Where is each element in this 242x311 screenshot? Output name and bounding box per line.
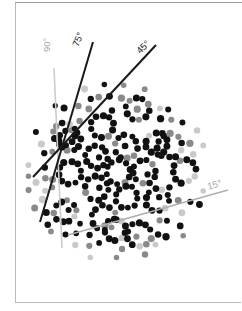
data-point	[114, 181, 120, 187]
data-point	[86, 243, 92, 249]
data-point	[81, 86, 88, 93]
data-point	[115, 135, 121, 141]
data-point	[104, 171, 110, 177]
data-point	[162, 233, 169, 240]
data-point	[50, 128, 56, 134]
data-point	[129, 221, 135, 227]
data-point	[95, 94, 102, 101]
data-point	[102, 148, 109, 155]
data-point	[92, 132, 98, 138]
data-point	[53, 203, 59, 209]
data-point	[152, 242, 158, 248]
data-point	[118, 154, 124, 160]
data-point	[136, 219, 143, 226]
data-point	[144, 171, 150, 177]
data-point	[153, 185, 160, 192]
data-point	[72, 242, 78, 248]
data-point	[65, 181, 72, 188]
data-point	[82, 189, 89, 196]
data-point	[159, 186, 165, 192]
data-point	[113, 198, 119, 204]
data-point	[109, 107, 115, 113]
angle-label-90: 90°	[41, 38, 52, 52]
data-point	[148, 149, 155, 156]
data-point	[146, 133, 152, 139]
data-point	[178, 180, 185, 187]
data-point	[26, 162, 32, 168]
data-point	[165, 192, 171, 198]
data-point	[178, 147, 184, 153]
data-point	[87, 196, 93, 202]
data-point	[147, 226, 153, 232]
data-point	[146, 180, 153, 187]
data-point	[143, 157, 149, 163]
data-point	[59, 120, 66, 127]
data-point	[60, 159, 67, 166]
data-point	[78, 168, 84, 174]
data-point	[123, 104, 129, 110]
data-point	[164, 143, 171, 150]
data-point	[33, 129, 39, 135]
data-point	[62, 231, 68, 237]
data-point	[69, 138, 76, 145]
data-point	[190, 151, 197, 158]
data-point	[127, 98, 133, 104]
data-point	[146, 189, 152, 195]
data-point	[133, 94, 140, 101]
data-point	[133, 234, 139, 240]
data-point	[124, 235, 131, 242]
data-point	[113, 149, 119, 155]
data-point	[170, 169, 177, 176]
data-point	[77, 136, 84, 143]
data-point	[112, 140, 118, 146]
data-point	[133, 176, 139, 182]
data-point	[167, 130, 174, 137]
data-point	[98, 175, 105, 182]
data-point	[142, 86, 148, 92]
data-point	[83, 158, 90, 165]
data-point	[42, 188, 48, 194]
data-point	[143, 241, 150, 248]
figure-container: 90° 75° 45° 15°	[0, 0, 242, 311]
data-point	[143, 138, 150, 145]
data-point	[124, 110, 131, 117]
data-point	[92, 173, 99, 180]
data-point	[109, 224, 115, 230]
data-point	[105, 133, 112, 140]
data-point	[165, 106, 171, 112]
data-point	[136, 243, 142, 249]
data-point	[122, 183, 129, 190]
data-point	[193, 166, 200, 173]
data-point	[139, 96, 145, 102]
data-point	[88, 255, 93, 260]
data-point	[125, 205, 131, 211]
data-point	[96, 240, 102, 246]
data-point	[119, 246, 125, 252]
pattern-canvas	[0, 0, 242, 311]
data-point	[90, 220, 97, 227]
data-point	[73, 180, 79, 186]
data-point	[132, 202, 138, 208]
data-point	[110, 120, 117, 127]
data-point	[134, 106, 141, 113]
data-point	[137, 157, 144, 164]
data-point	[183, 156, 190, 163]
data-point	[116, 186, 122, 192]
data-point	[179, 120, 185, 126]
data-point	[96, 154, 102, 160]
data-point	[33, 179, 40, 186]
data-point	[186, 140, 193, 147]
data-point	[131, 152, 138, 159]
data-point	[157, 106, 163, 112]
data-point	[104, 156, 110, 162]
data-point	[85, 176, 91, 182]
data-point	[71, 213, 77, 219]
data-point	[149, 161, 155, 167]
data-point	[92, 143, 98, 149]
data-point	[53, 216, 60, 223]
data-point	[154, 145, 161, 152]
data-point	[146, 108, 153, 115]
data-point	[143, 201, 150, 208]
data-point	[105, 187, 111, 193]
data-point	[106, 114, 112, 120]
